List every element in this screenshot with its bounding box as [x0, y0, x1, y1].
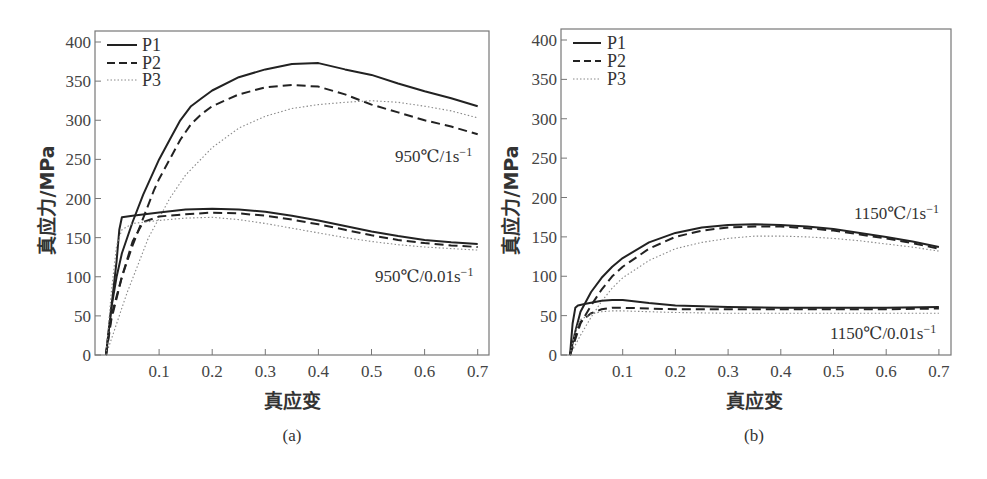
x-tick-label: 0.4	[308, 362, 330, 381]
annotation-high-rate: 1150℃/1s−1	[854, 202, 939, 223]
figure-caption-b: (b)	[744, 426, 764, 445]
y-tick-label: 100	[66, 268, 92, 287]
y-axis-ticks: 050100150200250300350400	[532, 31, 568, 365]
x-tick-label: 0.3	[717, 362, 738, 381]
x-tick-label: 0.1	[148, 362, 169, 381]
y-tick-label: 150	[532, 228, 558, 247]
y-tick-label: 0	[549, 346, 558, 365]
y-tick-label: 400	[532, 31, 558, 50]
annotation-high-rate: 950℃/1s−1	[395, 145, 472, 166]
chart-b: 050100150200250300350400 0.10.20.30.40.5…	[500, 29, 951, 445]
legend: P1 P2 P3	[573, 33, 626, 89]
y-tick-label: 50	[540, 307, 557, 326]
y-axis-title: 真应力/MPa	[36, 145, 58, 254]
y-tick-label: 350	[66, 72, 92, 91]
legend: P1 P2 P3	[107, 35, 161, 90]
x-tick-label: 0.7	[467, 362, 489, 381]
y-tick-label: 0	[83, 346, 92, 365]
x-tick-label: 0.5	[361, 362, 382, 381]
x-axis-title: 真应变	[264, 390, 321, 412]
y-tick-label: 100	[532, 267, 558, 286]
x-tick-label: 0.3	[255, 362, 276, 381]
y-tick-label: 400	[66, 33, 92, 52]
x-axis-ticks: 0.10.20.30.40.50.60.7	[612, 349, 950, 381]
x-tick-label: 0.1	[612, 362, 633, 381]
x-axis-title: 真应变	[726, 390, 783, 412]
legend-label-p1: P1	[142, 35, 161, 55]
chart-a: 050100150200250300350400 0.10.20.30.40.5…	[36, 31, 489, 445]
y-axis-title: 真应力/MPa	[500, 145, 522, 254]
x-tick-label: 0.6	[876, 362, 897, 381]
figure: 050100150200250300350400 0.10.20.30.40.5…	[0, 0, 987, 479]
series-line-p2	[106, 85, 478, 355]
y-tick-label: 50	[74, 307, 91, 326]
annotation-low-rate: 950℃/0.01s−1	[375, 265, 473, 286]
legend-label-p2: P2	[607, 51, 626, 71]
legend-label-p1: P1	[607, 33, 626, 53]
y-tick-label: 350	[532, 70, 558, 89]
x-tick-label: 0.2	[202, 362, 223, 381]
y-tick-label: 150	[66, 229, 92, 248]
legend-label-p3: P3	[142, 70, 161, 90]
y-tick-label: 200	[532, 189, 558, 208]
x-tick-label: 0.6	[414, 362, 435, 381]
x-axis-ticks: 0.10.20.30.40.50.60.7	[148, 349, 488, 381]
legend-label-p3: P3	[607, 69, 626, 89]
y-tick-label: 200	[66, 190, 92, 209]
y-tick-label: 250	[66, 150, 92, 169]
series-group	[106, 63, 478, 355]
series-line-p1	[106, 63, 478, 355]
series-line-p3	[106, 101, 478, 355]
y-tick-label: 250	[532, 149, 558, 168]
series-line-p3	[106, 217, 478, 355]
x-tick-label: 0.4	[770, 362, 792, 381]
y-axis-ticks: 050100150200250300350400	[66, 33, 102, 365]
x-tick-label: 0.7	[928, 362, 950, 381]
y-tick-label: 300	[66, 111, 92, 130]
x-tick-label: 0.2	[665, 362, 686, 381]
figure-caption-a: (a)	[283, 426, 302, 445]
y-tick-label: 300	[532, 110, 558, 129]
annotation-low-rate: 1150℃/0.01s−1	[830, 322, 936, 343]
x-tick-label: 0.5	[823, 362, 844, 381]
